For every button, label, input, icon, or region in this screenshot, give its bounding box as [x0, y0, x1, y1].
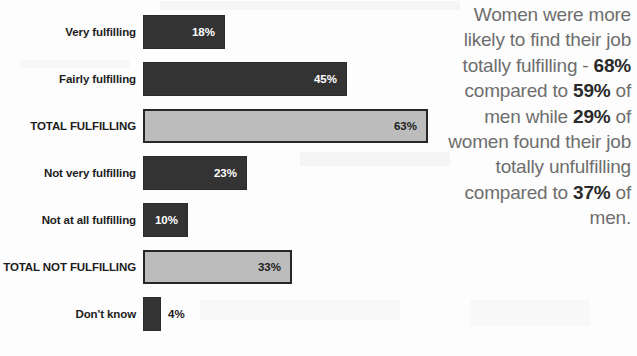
chart-row: TOTAL NOT FULFILLING33% [0, 250, 440, 284]
bar-category-label: Very fulfilling [0, 26, 143, 38]
chart-row: Very fulfilling18% [0, 15, 440, 49]
bar: 23% [143, 156, 247, 190]
scan-artifact [470, 300, 590, 326]
bar-category-label: Don't know [0, 308, 143, 320]
bar-category-label: TOTAL FULFILLING [0, 120, 143, 132]
bar-value-label: 10% [155, 214, 187, 226]
bar-value-label: 4% [161, 308, 185, 320]
sidenote-highlight: 59% [573, 80, 610, 101]
bar-track: 23% [143, 156, 440, 190]
sidenote-text: compared to [465, 80, 574, 101]
bar-value-label: 33% [258, 261, 290, 273]
horizontal-bar-chart: Very fulfilling18%Fairly fulfilling45%TO… [0, 0, 440, 356]
chart-row: Not very fulfilling23% [0, 156, 440, 190]
bar-track: 18% [143, 15, 440, 49]
chart-row: Fairly fulfilling45% [0, 62, 440, 96]
sidenote-highlight: 37% [573, 182, 610, 203]
sidenote-pullquote: Women were more likely to find their job… [435, 2, 631, 231]
sidenote-highlight: 68% [594, 55, 631, 76]
bar [143, 297, 161, 331]
chart-page: Very fulfilling18%Fairly fulfilling45%TO… [0, 0, 637, 356]
chart-row: Don't know4% [0, 297, 440, 331]
bar-track: 45% [143, 62, 440, 96]
bar: 63% [143, 109, 428, 143]
bar-value-label: 45% [314, 73, 346, 85]
bar-category-label: TOTAL NOT FULFILLING [0, 261, 143, 273]
bar-category-label: Not very fulfilling [0, 167, 143, 179]
bar-value-label: 63% [394, 120, 426, 132]
bar-track: 63% [143, 109, 440, 143]
bar: 10% [143, 203, 188, 237]
chart-row: TOTAL FULFILLING63% [0, 109, 440, 143]
bar-category-label: Fairly fulfilling [0, 73, 143, 85]
bar-category-label: Not at all fulfilling [0, 214, 143, 226]
bar-value-label: 18% [192, 26, 224, 38]
bar: 18% [143, 15, 225, 49]
bar: 45% [143, 62, 347, 96]
bar-track: 10% [143, 203, 440, 237]
bar-track: 4% [143, 297, 440, 331]
chart-row: Not at all fulfilling10% [0, 203, 440, 237]
bar-track: 33% [143, 250, 440, 284]
bar-value-label: 23% [214, 167, 246, 179]
sidenote-highlight: 29% [573, 106, 610, 127]
bar: 33% [143, 250, 292, 284]
